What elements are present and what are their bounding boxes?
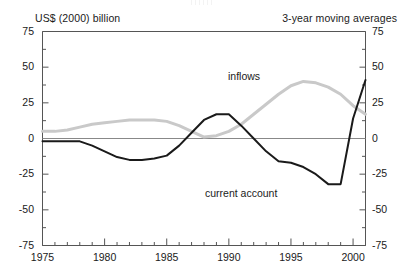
y-axis-left-tick-label: -50 — [4, 203, 34, 215]
plot-area — [0, 0, 407, 278]
x-axis-tick-label: 1990 — [209, 251, 249, 263]
series-line-current-account — [43, 80, 366, 184]
x-axis-tick-label: 1995 — [271, 251, 311, 263]
y-axis-right-tick-label: 25 — [372, 96, 402, 108]
y-axis-right-tick-label: 75 — [372, 25, 402, 37]
y-axis-right-tick-label: -50 — [372, 203, 402, 215]
x-axis-tick-label: 2000 — [333, 251, 373, 263]
y-axis-left-tick-label: 25 — [4, 96, 34, 108]
series-group — [43, 80, 366, 184]
y-axis-left-tick-label: -75 — [4, 239, 34, 251]
y-axis-left-tick-label: 50 — [4, 60, 34, 72]
y-axis-right-tick-label: -75 — [372, 239, 402, 251]
y-axis-left-tick-label: 75 — [4, 25, 34, 37]
x-axis-tick-label: 1975 — [23, 251, 63, 263]
y-axis-left-tick-label: -25 — [4, 167, 34, 179]
x-axis-tick-label: 1980 — [85, 251, 125, 263]
x-axis-tick-label: 1985 — [147, 251, 187, 263]
series-line-inflows — [43, 81, 366, 137]
chart-container: US$ (2000) billion 3-year moving average… — [0, 0, 407, 278]
y-axis-left-tick-label: 0 — [4, 132, 34, 144]
y-axis-right-tick-label: 0 — [372, 132, 402, 144]
y-axis-right-tick-label: 50 — [372, 60, 402, 72]
y-axis-right-tick-label: -25 — [372, 167, 402, 179]
